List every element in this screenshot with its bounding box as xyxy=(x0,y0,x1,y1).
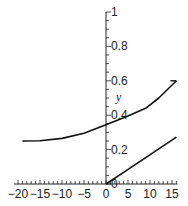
x-tick-label: −20 xyxy=(8,187,29,201)
y-tick-label: 0.2 xyxy=(111,143,128,157)
x-tick-label: 15 xyxy=(165,187,179,201)
line-chart: −20−15−10−5051015 00.20.40.60.81 y xyxy=(0,0,188,206)
x-tick-label: −10 xyxy=(52,187,73,201)
y-tick-label: 0.8 xyxy=(111,39,128,53)
x-tick-label: −5 xyxy=(77,187,91,201)
x-tick-label: −15 xyxy=(30,187,51,201)
x-axis: −20−15−10−5051015 xyxy=(8,180,179,201)
upper-curve-line xyxy=(22,81,176,141)
x-tick-label: 0 xyxy=(103,187,110,201)
x-tick-label: 10 xyxy=(143,187,157,201)
series-group xyxy=(22,81,176,184)
y-tick-label: 0.6 xyxy=(111,74,128,88)
y-tick-label: 1 xyxy=(111,5,118,19)
y-axis-label: y xyxy=(115,90,122,104)
x-tick-label: 5 xyxy=(125,187,132,201)
